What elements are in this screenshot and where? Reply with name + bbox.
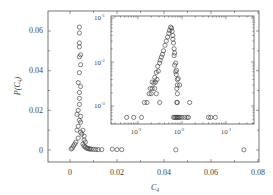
- data-point: [77, 31, 81, 35]
- data-point: [77, 45, 81, 49]
- main-ytick-label: 0.04: [29, 66, 43, 75]
- inset-plot-frame: [111, 16, 254, 124]
- main-xtick-label: 0.04: [157, 168, 171, 177]
- main-xtick-label: 0.08: [251, 168, 265, 177]
- data-point: [79, 114, 83, 118]
- data-point: [110, 147, 114, 151]
- data-point: [76, 81, 80, 85]
- data-point: [77, 102, 81, 106]
- data-point: [120, 148, 124, 152]
- data-point: [77, 90, 81, 94]
- data-point: [76, 136, 80, 140]
- data-point: [76, 108, 80, 112]
- inset-xtick-label: 10-3: [131, 127, 142, 136]
- inset-ytick-label: 10-3: [94, 101, 105, 110]
- inset-ytick-label: 10-1: [94, 13, 105, 22]
- data-point: [77, 41, 81, 45]
- data-point: [76, 124, 80, 128]
- x-axis-label: C4: [151, 183, 159, 193]
- main-ytick-label: 0: [39, 146, 43, 155]
- y-axis-label: P(C4): [13, 77, 23, 97]
- chart: 0 0.02 0.04 0.06 0.08 0 0.02 0.04 0.06 C…: [0, 0, 273, 195]
- data-point: [115, 148, 119, 152]
- data-point: [77, 71, 81, 75]
- main-xtick-label: 0.02: [110, 168, 124, 177]
- inset-xtick-label: 10-2: [174, 127, 185, 136]
- main-ytick-label: 0.06: [29, 26, 43, 35]
- main-ytick-label: 0.02: [29, 106, 43, 115]
- inset-xtick-label: 10-1: [221, 127, 232, 136]
- main-xtick-label: 0: [68, 168, 72, 177]
- data-point: [77, 96, 81, 100]
- data-point: [77, 25, 81, 29]
- data-point: [174, 148, 178, 152]
- data-point: [242, 148, 246, 152]
- data-point: [69, 147, 73, 151]
- inset-ytick-label: 10-2: [94, 58, 105, 67]
- data-point: [79, 84, 83, 88]
- main-xtick-label: 0.06: [204, 168, 218, 177]
- data-point: [79, 63, 83, 67]
